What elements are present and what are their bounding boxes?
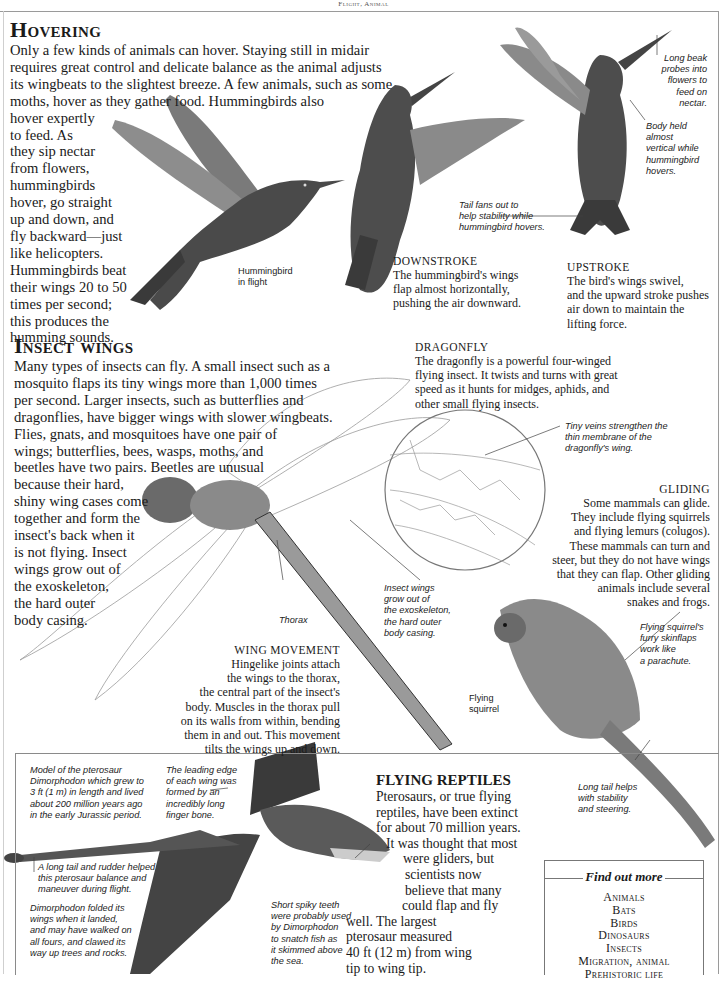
caption-long-beak: Long beak probes into flowers to feed on… — [640, 53, 707, 109]
find-out-more-list: Animals Bats Birds Dinosaurs Insects Mig… — [545, 891, 703, 981]
hovering-body-line: times per second; — [10, 296, 392, 313]
hovering-body-line: up and down, and — [10, 211, 392, 228]
find-out-more-title: Find out more — [545, 869, 703, 885]
caption-body-held: Body held almost vertical while hummingb… — [646, 121, 716, 177]
hovering-intro-line: Only a few kinds of animals can hover. S… — [10, 42, 392, 59]
caption-long-tail: Long tail helps with stability and steer… — [578, 782, 637, 816]
caption-pterosaur-model: Model of the pterosaur Dimorphodon which… — [30, 765, 144, 821]
hovering-intro-line: requires great control and delicate bala… — [10, 59, 392, 76]
find-out-more-box: Find out more Animals Bats Birds Dinosau… — [544, 860, 704, 975]
hovering-body-line: they sip nectar — [10, 143, 392, 160]
gliding-block: Gliding Some mammals can glide. They inc… — [480, 482, 710, 610]
find-link-bats[interactable]: Bats — [545, 904, 703, 917]
caption-skinflaps: Flying squirrel's furry skinflaps work l… — [640, 622, 704, 667]
caption-tail-rudder: A long tail and rudder helped this ptero… — [38, 862, 155, 896]
hovering-body-line: fly backward—just — [10, 228, 392, 245]
hovering-body-line: Hummingbirds beat — [10, 262, 392, 279]
wing-movement-heading: Wing movement — [140, 643, 340, 657]
hovering-body-line: hover, go straight — [10, 194, 392, 211]
caption-leading-edge: The leading edge of each wing was formed… — [166, 765, 237, 821]
caption-tiny-veins: Tiny veins strengthen the thin membrane … — [565, 421, 668, 455]
upstroke-block: Upstroke The bird's wings swivel, and th… — [567, 260, 709, 331]
dragonfly-block: Dragonfly The dragonfly is a powerful fo… — [415, 340, 618, 411]
hovering-intro-line: its wingbeats to the slightest breeze. A… — [10, 76, 392, 93]
hovering-body-line: this produces the — [10, 313, 392, 330]
caption-tail-fans: Tail fans out to help stability while hu… — [459, 200, 545, 234]
hovering-intro-line: moths, hover as they gather food. Hummin… — [10, 93, 392, 110]
flying-reptiles-title: FLYING REPTILES — [376, 771, 536, 789]
hovering-body-line: their wings 20 to 50 — [10, 279, 392, 296]
downstroke-heading: Downstroke — [393, 254, 521, 268]
downstroke-block: Downstroke The hummingbird's wings flap … — [393, 254, 521, 311]
hovering-title: Hovering — [10, 18, 392, 42]
insect-wings-section: Insect wings Many types of insects can f… — [14, 334, 333, 629]
caption-dimorphodon-folded: Dimorphodon folded its wings when it lan… — [30, 903, 132, 959]
hovering-body-line: hover expertly — [10, 110, 392, 127]
hovering-body-line: hummingbirds — [10, 177, 392, 194]
find-link-prehistoric-life[interactable]: Prehistoric life — [545, 968, 703, 981]
caption-flying-squirrel: Flying squirrel — [469, 693, 499, 715]
flying-reptiles-section: FLYING REPTILES Pterosaurs, or true flyi… — [376, 771, 536, 976]
caption-insect-wings-exoskeleton: Insect wings grow out of the exoskeleton… — [384, 583, 451, 639]
caption-thorax: Thorax — [279, 615, 308, 626]
find-link-migration-animal[interactable]: Migration, animal — [545, 955, 703, 968]
caption-hummingbird-in-flight: Hummingbird in flight — [238, 266, 293, 288]
hovering-body-line: like helicopters. — [10, 245, 392, 262]
hovering-section: Hovering Only a few kinds of animals can… — [10, 18, 392, 346]
gliding-heading: Gliding — [480, 482, 710, 496]
insect-wings-title: Insect wings — [14, 334, 333, 358]
upstroke-heading: Upstroke — [567, 260, 709, 274]
hovering-body-line: to feed. As — [10, 127, 392, 144]
caption-spiky-teeth: Short spiky teeth were probably used by … — [271, 900, 351, 967]
find-out-more-rule-right — [665, 878, 703, 879]
dragonfly-heading: Dragonfly — [415, 340, 618, 354]
wing-movement-block: Wing movement Hingelike joints attach th… — [140, 643, 340, 756]
hovering-body-line: from flowers, — [10, 160, 392, 177]
find-link-animals[interactable]: Animals — [545, 891, 703, 904]
